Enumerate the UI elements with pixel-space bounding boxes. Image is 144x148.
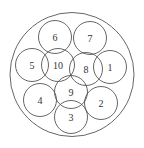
circle-2: 2 (85, 87, 118, 120)
circle-label: 3 (69, 112, 74, 123)
circle-5: 5 (16, 49, 49, 82)
circle-label: 1 (108, 62, 113, 73)
inner-circles: 12345678910 (16, 21, 127, 134)
circle-1: 1 (94, 51, 127, 84)
circle-7: 7 (74, 22, 107, 55)
circle-label: 8 (84, 64, 89, 75)
circle-9: 9 (55, 76, 88, 109)
circle-label: 2 (99, 98, 104, 109)
circle-label: 6 (53, 32, 58, 43)
circle-label: 10 (53, 60, 63, 71)
circle-label: 5 (30, 60, 35, 71)
circle-3: 3 (55, 101, 88, 134)
circle-label: 7 (88, 33, 93, 44)
circle-diagram: 12345678910 (0, 0, 144, 148)
circle-label: 9 (69, 87, 74, 98)
circle-label: 4 (38, 95, 43, 106)
circle-4: 4 (24, 84, 57, 117)
